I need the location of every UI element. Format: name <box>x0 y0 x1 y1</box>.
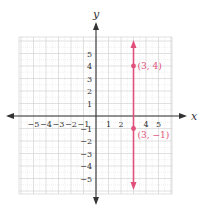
y-axis-arrow-down <box>93 197 99 205</box>
x-tick-label: 4 <box>143 120 148 129</box>
y-tick-label: −2 <box>80 137 92 146</box>
y-tick-label: −3 <box>80 150 92 159</box>
y-tick-label: 4 <box>87 62 92 71</box>
x-axis-label: x <box>191 110 198 123</box>
x-tick-label: −4 <box>40 120 52 129</box>
y-tick-label: −1 <box>80 125 92 134</box>
axes <box>6 22 187 205</box>
data-point <box>131 64 136 69</box>
x-tick-label: 1 <box>106 120 111 129</box>
point-label: (3, 4) <box>138 61 162 71</box>
x-axis-arrow-left <box>6 113 14 119</box>
x-tick-label: −5 <box>28 120 40 129</box>
y-tick-label: 1 <box>87 100 92 109</box>
x-tick-label: −2 <box>65 120 77 129</box>
point-label: (3, −1) <box>138 130 170 140</box>
y-tick-label: −4 <box>80 162 92 171</box>
y-axis-arrow-up <box>93 22 99 30</box>
y-tick-label: 5 <box>87 50 92 59</box>
y-tick-label: −5 <box>80 175 92 184</box>
y-tick-label: 3 <box>87 75 92 84</box>
coordinate-plane: −5−4−3−2−1124554321−1−2−3−4−5 (3, 4)(3, … <box>0 0 203 213</box>
points: (3, 4)(3, −1) <box>131 61 169 140</box>
x-tick-label: −3 <box>53 120 65 129</box>
x-axis-arrow-right <box>179 113 187 119</box>
data-point <box>131 126 136 131</box>
y-tick-label: 2 <box>87 87 92 96</box>
y-axis-label: y <box>92 8 100 21</box>
x-tick-label: 2 <box>118 120 123 129</box>
series-arrow-down <box>131 182 137 190</box>
x-tick-label: 5 <box>156 120 161 129</box>
series <box>131 40 137 190</box>
